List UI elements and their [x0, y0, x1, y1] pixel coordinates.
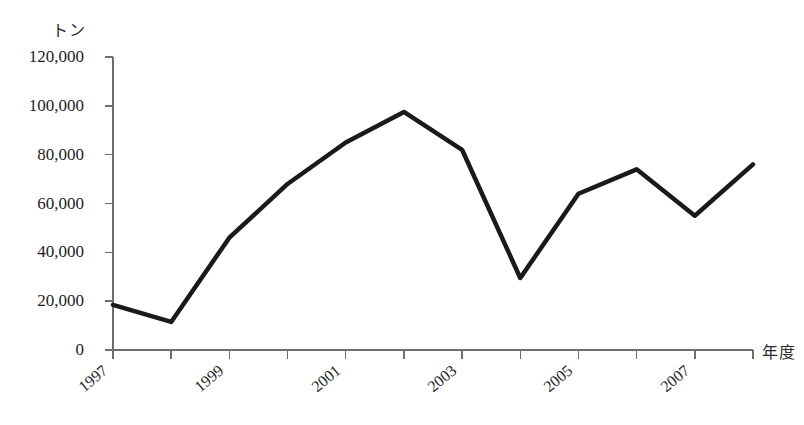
line-chart-plot [0, 0, 804, 425]
chart-axes [105, 57, 753, 359]
data-series-line [113, 112, 753, 322]
chart-page: トン 年度 020,00040,00060,00080,000100,00012… [0, 0, 804, 425]
series-polyline [113, 112, 753, 322]
